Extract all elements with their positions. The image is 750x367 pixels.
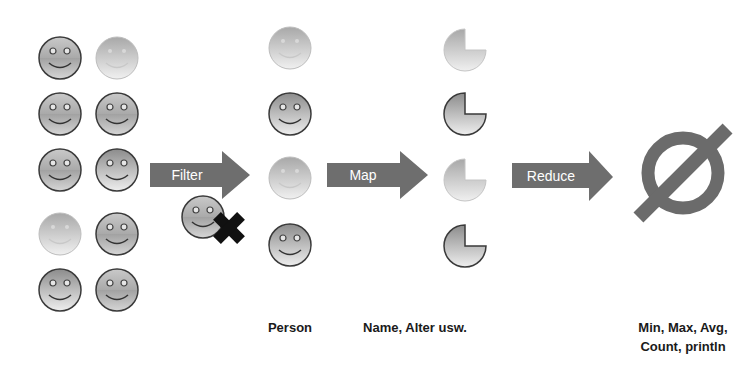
mapped-column: [444, 29, 486, 267]
person-icon: [269, 224, 311, 266]
person-icon: [96, 37, 138, 79]
person-icon: [269, 93, 311, 135]
person-icon: [39, 93, 81, 135]
person-icon: [269, 157, 311, 199]
result-caption-line1: Min, Max, Avg,: [623, 319, 743, 337]
person-icon: [39, 213, 81, 255]
empty-set-icon: [634, 124, 733, 223]
mapped-caption: Name, Alter usw.: [355, 319, 475, 337]
person-icon: [269, 27, 311, 69]
person-icon: [39, 149, 81, 191]
attribute-pie-icon: [444, 159, 486, 201]
map-label: Map: [349, 167, 376, 183]
person-column: [269, 27, 311, 266]
source-collection: [39, 37, 138, 311]
person-icon: [96, 213, 138, 255]
filtered-out-item: [182, 196, 253, 252]
filter-label: Filter: [171, 167, 202, 183]
stream-diagram-canvas: Filter Map Reduce: [0, 0, 750, 367]
person-icon: [96, 93, 138, 135]
result-caption-line2: Count, println: [623, 338, 743, 356]
person-icon: [39, 37, 81, 79]
attribute-pie-icon: [444, 29, 486, 71]
attribute-pie-icon: [444, 93, 486, 135]
person-icon: [96, 269, 138, 311]
attribute-pie-icon: [444, 225, 486, 267]
reduce-label: Reduce: [527, 168, 575, 184]
person-icon: [96, 149, 138, 191]
person-icon: [39, 269, 81, 311]
map-arrow: [327, 151, 428, 199]
person-caption: Person: [250, 319, 330, 337]
